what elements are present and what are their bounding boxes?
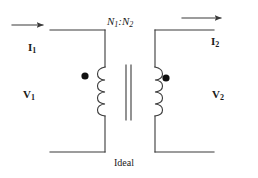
secondary-coil xyxy=(155,67,163,116)
primary-voltage-label: V1 xyxy=(23,89,35,102)
ideal-core-label: Ideal xyxy=(114,158,134,168)
secondary-voltage-subscript: 2 xyxy=(220,93,224,102)
transformer-diagram-canvas: I1 I2 V1 V2 N1:N2 Ideal xyxy=(0,0,258,178)
turns-secondary-subscript: 2 xyxy=(129,20,133,29)
primary-voltage-subscript: 1 xyxy=(31,93,35,102)
primary-polarity-dot xyxy=(81,72,88,79)
secondary-voltage-symbol: V xyxy=(212,88,220,100)
primary-current-label: I1 xyxy=(28,42,36,55)
primary-current-subscript: 1 xyxy=(32,46,36,55)
secondary-current-subscript: 2 xyxy=(215,40,219,49)
turns-ratio-label: N1:N2 xyxy=(107,16,133,29)
secondary-voltage-label: V2 xyxy=(212,89,224,102)
secondary-polarity-dot xyxy=(162,74,169,81)
primary-voltage-symbol: V xyxy=(23,88,31,100)
secondary-current-label: I2 xyxy=(211,36,219,49)
primary-coil xyxy=(98,67,106,116)
